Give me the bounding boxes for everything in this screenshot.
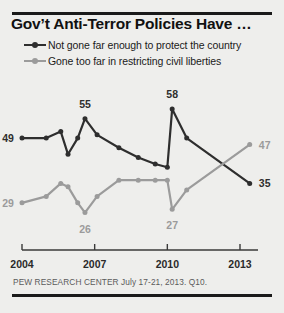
value-label-49: 49 <box>2 132 14 144</box>
data-point <box>247 181 252 186</box>
data-point <box>75 200 80 205</box>
chart-legend: Not gone far enough to protect the count… <box>24 37 276 69</box>
data-point <box>82 210 87 215</box>
plot-area <box>0 74 284 264</box>
value-label-35: 35 <box>259 177 271 189</box>
data-point <box>165 165 170 170</box>
data-point <box>44 136 49 141</box>
series-line-0 <box>22 109 250 183</box>
data-point <box>153 162 158 167</box>
legend-item-gone-too-far: Gone too far in restricting civil libert… <box>24 53 276 68</box>
x-axis-tick-labels: 2004200720102013 <box>0 258 284 274</box>
chart-title: Gov’t Anti-Terror Policies Have … <box>11 15 277 33</box>
source-note: PEW RESEARCH CENTER July 17-21, 2013. Q1… <box>13 277 207 287</box>
data-point <box>165 178 170 183</box>
bottom-divider-rule <box>12 294 272 297</box>
legend-swatch-dark-line-icon <box>24 39 46 50</box>
legend-item-not-gone-far-enough: Not gone far enough to protect the count… <box>24 37 276 52</box>
data-point <box>20 136 25 141</box>
data-point <box>75 136 80 141</box>
series-line-1 <box>22 145 250 213</box>
legend-label-gone-too-far: Gone too far in restricting civil libert… <box>48 55 221 67</box>
x-tick-label-2007: 2007 <box>83 258 106 270</box>
data-point <box>95 194 100 199</box>
data-point <box>153 178 158 183</box>
x-tick-label-2013: 2013 <box>228 258 251 270</box>
legend-swatch-gray-line-icon <box>24 55 46 66</box>
data-point <box>66 152 71 157</box>
legend-label-not-gone-far-enough: Not gone far enough to protect the count… <box>48 39 241 51</box>
data-point <box>184 136 189 141</box>
data-point <box>170 207 175 212</box>
data-point <box>58 181 63 186</box>
data-point <box>66 184 71 189</box>
line-chart-svg <box>0 74 284 264</box>
value-label-55: 55 <box>79 98 91 110</box>
data-point <box>184 187 189 192</box>
data-point <box>20 200 25 205</box>
value-label-26: 26 <box>79 223 91 235</box>
data-point <box>116 145 121 150</box>
data-point <box>247 142 252 147</box>
data-point <box>82 116 87 121</box>
data-point <box>58 129 63 134</box>
value-label-29: 29 <box>2 197 14 209</box>
x-tick-label-2010: 2010 <box>156 258 179 270</box>
value-label-47: 47 <box>259 139 271 151</box>
data-point <box>136 155 141 160</box>
data-point <box>116 178 121 183</box>
data-point <box>95 132 100 137</box>
x-tick-label-2004: 2004 <box>10 258 33 270</box>
value-label-58: 58 <box>166 88 178 100</box>
value-label-27: 27 <box>166 219 178 231</box>
data-point <box>136 178 141 183</box>
chart-figure: Gov’t Anti-Terror Policies Have … Not go… <box>0 0 284 313</box>
data-point <box>44 194 49 199</box>
data-point <box>170 106 175 111</box>
